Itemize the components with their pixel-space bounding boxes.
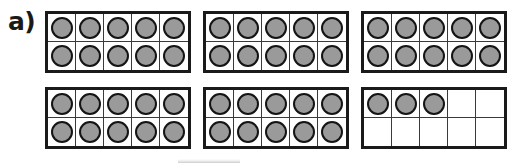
counter-chip-icon bbox=[163, 93, 185, 115]
ten-frame-cell[interactable] bbox=[234, 90, 262, 118]
ten-frame-5 bbox=[203, 87, 349, 149]
counter-chip-icon bbox=[135, 121, 157, 143]
ten-frame-cell[interactable] bbox=[76, 90, 104, 118]
counter-chip-icon bbox=[51, 45, 73, 67]
counter-chip-icon bbox=[237, 45, 259, 67]
counter-chip-icon bbox=[237, 121, 259, 143]
ten-frame-cell[interactable] bbox=[476, 118, 504, 146]
counter-chip-icon bbox=[209, 93, 231, 115]
counter-chip-icon bbox=[51, 93, 73, 115]
ten-frame-cell[interactable] bbox=[476, 14, 504, 42]
counter-chip-icon bbox=[163, 45, 185, 67]
ten-frame-cell[interactable] bbox=[318, 42, 346, 70]
ten-frame-4 bbox=[45, 87, 191, 149]
counter-chip-icon bbox=[265, 45, 287, 67]
counter-chip-icon bbox=[265, 17, 287, 39]
counter-chip-icon bbox=[209, 17, 231, 39]
ten-frame-cell[interactable] bbox=[364, 14, 392, 42]
ten-frame-cell[interactable] bbox=[448, 90, 476, 118]
ten-frame-cell[interactable] bbox=[392, 42, 420, 70]
ten-frames-grid bbox=[45, 11, 507, 161]
counter-chip-icon bbox=[79, 93, 101, 115]
ten-frame-cell[interactable] bbox=[48, 42, 76, 70]
counter-chip-icon bbox=[423, 45, 445, 67]
ten-frame-cell[interactable] bbox=[290, 14, 318, 42]
ten-frame-cell[interactable] bbox=[364, 118, 392, 146]
ten-frame-cell[interactable] bbox=[392, 118, 420, 146]
ten-frame-cell[interactable] bbox=[420, 118, 448, 146]
ten-frame-cell[interactable] bbox=[392, 14, 420, 42]
ten-frame-cell[interactable] bbox=[448, 118, 476, 146]
counter-chip-icon bbox=[265, 93, 287, 115]
counter-chip-icon bbox=[51, 121, 73, 143]
ten-frame-cell[interactable] bbox=[262, 118, 290, 146]
counter-chip-icon bbox=[367, 17, 389, 39]
ten-frame-cell[interactable] bbox=[48, 90, 76, 118]
ten-frame-cell[interactable] bbox=[262, 42, 290, 70]
ten-frame-cell[interactable] bbox=[206, 42, 234, 70]
ten-frame-cell[interactable] bbox=[364, 90, 392, 118]
counter-chip-icon bbox=[451, 17, 473, 39]
counter-chip-icon bbox=[321, 93, 343, 115]
ten-frame-cell[interactable] bbox=[132, 90, 160, 118]
ten-frame-cell[interactable] bbox=[104, 90, 132, 118]
ten-frame-cell[interactable] bbox=[364, 42, 392, 70]
ten-frame-cell[interactable] bbox=[262, 90, 290, 118]
ten-frame-cell[interactable] bbox=[420, 90, 448, 118]
ten-frame-cell[interactable] bbox=[48, 118, 76, 146]
ten-frame-cell[interactable] bbox=[132, 42, 160, 70]
ten-frame-cell[interactable] bbox=[104, 42, 132, 70]
ten-frame-cell[interactable] bbox=[290, 90, 318, 118]
ten-frame-cell[interactable] bbox=[104, 14, 132, 42]
ten-frame-cell[interactable] bbox=[206, 14, 234, 42]
ten-frame-cell[interactable] bbox=[48, 14, 76, 42]
ten-frame-cell[interactable] bbox=[160, 14, 188, 42]
ten-frame-2 bbox=[203, 11, 349, 73]
ten-frame-cell[interactable] bbox=[160, 42, 188, 70]
ten-frame-3 bbox=[361, 11, 507, 73]
ten-frame-cell[interactable] bbox=[448, 42, 476, 70]
ten-frame-cell[interactable] bbox=[76, 118, 104, 146]
ten-frame-cell[interactable] bbox=[420, 14, 448, 42]
counter-chip-icon bbox=[107, 17, 129, 39]
counter-chip-icon bbox=[321, 121, 343, 143]
ten-frame-cell[interactable] bbox=[318, 90, 346, 118]
ten-frame-cell[interactable] bbox=[476, 90, 504, 118]
ten-frame-cell[interactable] bbox=[76, 42, 104, 70]
ten-frame-cell[interactable] bbox=[234, 118, 262, 146]
counter-chip-icon bbox=[479, 45, 501, 67]
counter-chip-icon bbox=[395, 45, 417, 67]
ten-frame-cell[interactable] bbox=[290, 42, 318, 70]
counter-chip-icon bbox=[479, 17, 501, 39]
counter-chip-icon bbox=[163, 17, 185, 39]
counter-chip-icon bbox=[395, 17, 417, 39]
ten-frame-cell[interactable] bbox=[392, 90, 420, 118]
ten-frame-cell[interactable] bbox=[290, 118, 318, 146]
counter-chip-icon bbox=[395, 93, 417, 115]
ten-frame-cell[interactable] bbox=[76, 14, 104, 42]
ten-frame-cell[interactable] bbox=[234, 42, 262, 70]
counter-chip-icon bbox=[367, 93, 389, 115]
counter-chip-icon bbox=[163, 121, 185, 143]
ten-frame-cell[interactable] bbox=[318, 14, 346, 42]
ten-frame-cell[interactable] bbox=[160, 118, 188, 146]
counter-chip-icon bbox=[423, 17, 445, 39]
counter-chip-icon bbox=[293, 93, 315, 115]
ten-frame-cell[interactable] bbox=[160, 90, 188, 118]
ten-frame-cell[interactable] bbox=[234, 14, 262, 42]
counter-chip-icon bbox=[79, 121, 101, 143]
counter-chip-icon bbox=[135, 45, 157, 67]
ten-frame-cell[interactable] bbox=[448, 14, 476, 42]
ten-frame-cell[interactable] bbox=[132, 14, 160, 42]
ten-frame-cell[interactable] bbox=[104, 118, 132, 146]
ten-frame-cell[interactable] bbox=[318, 118, 346, 146]
counter-chip-icon bbox=[293, 17, 315, 39]
ten-frame-cell[interactable] bbox=[206, 118, 234, 146]
part-label: a) bbox=[8, 9, 35, 34]
ten-frame-cell[interactable] bbox=[262, 14, 290, 42]
ten-frame-worksheet: a) bbox=[0, 0, 512, 168]
ten-frame-cell[interactable] bbox=[420, 42, 448, 70]
ten-frame-cell[interactable] bbox=[132, 118, 160, 146]
ten-frame-cell[interactable] bbox=[476, 42, 504, 70]
ten-frame-cell[interactable] bbox=[206, 90, 234, 118]
